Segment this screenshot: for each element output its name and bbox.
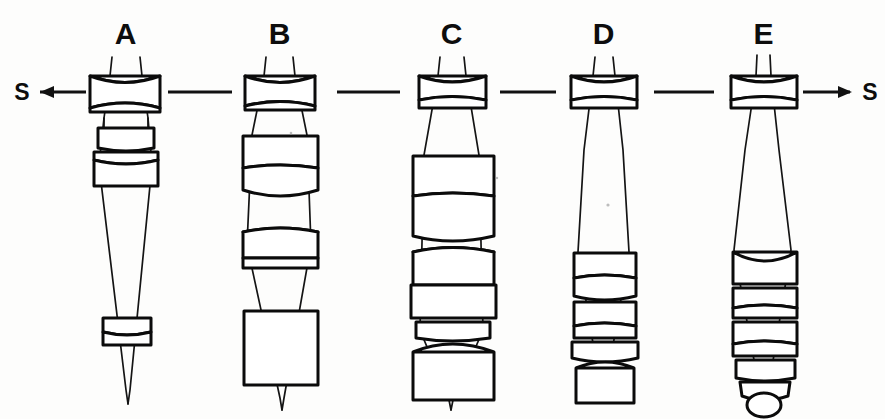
lens-group-d4 [572, 342, 638, 362]
column-label-c: C [441, 17, 462, 50]
lens-group-c2 [413, 156, 494, 241]
scan-speck [290, 132, 293, 135]
axis-label-s-left: S [14, 79, 29, 105]
lens-group-e3 [733, 288, 797, 318]
lens-group-d5 [576, 362, 634, 403]
column-label-b: B [269, 17, 290, 50]
column-label-e: E [753, 17, 772, 50]
lens-group-c1 [419, 76, 486, 108]
lens-group-a2 [98, 128, 154, 151]
column-label-a: A [115, 17, 136, 50]
lens-group-b1 [245, 76, 315, 110]
lens-group-e5 [736, 360, 795, 381]
lens-group-d1 [571, 76, 637, 108]
lens-group-d3 [574, 302, 636, 338]
lens-column-b [243, 57, 318, 410]
lens-group-e1 [731, 76, 797, 108]
lens-group-b4 [244, 311, 318, 385]
lens-group-b2 [243, 136, 318, 196]
lens-group-c5 [413, 344, 494, 400]
lens-group-d2 [574, 253, 636, 300]
lens-group-e4 [733, 322, 797, 356]
lens-diagram-canvas: S S A B C D E [0, 0, 885, 419]
scan-speck [606, 203, 609, 206]
lens-group-e7 [747, 393, 781, 417]
lens-diagram-figure: S S A B C D E [0, 0, 885, 419]
axis-label-s-right: S [862, 79, 877, 105]
scan-speck [496, 177, 498, 179]
lens-group-a1 [90, 76, 160, 112]
lens-group-b3 [243, 228, 318, 268]
lens-group-c4 [416, 322, 490, 341]
lens-group-a3 [94, 152, 158, 186]
lens-group-a4 [103, 318, 151, 345]
lens-group-c3 [411, 248, 496, 319]
column-label-d: D [593, 17, 614, 50]
